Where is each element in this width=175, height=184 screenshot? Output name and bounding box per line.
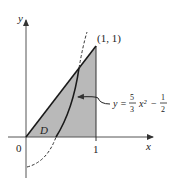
eq-minus: − (151, 98, 157, 109)
region-diagram: y x 0 1 (1, 1) D y = 5 3 x² − 1 2 (0, 0, 175, 184)
x-tick-label-1: 1 (93, 143, 99, 155)
point-label: (1, 1) (97, 32, 121, 45)
origin-label: 0 (16, 142, 22, 154)
eq-frac2-den: 2 (161, 105, 165, 114)
x-axis-label: x (145, 140, 151, 152)
curve-equation: y = 5 3 x² − 1 2 (112, 93, 167, 114)
eq-frac1-num: 5 (130, 93, 134, 102)
eq-lhs: y = (112, 98, 127, 109)
eq-frac2-num: 1 (161, 93, 165, 102)
eq-frac1-den: 3 (130, 105, 134, 114)
region-label: D (39, 124, 48, 136)
parabola-dashed-lower (27, 137, 56, 167)
diagram-canvas: y x 0 1 (1, 1) D y = 5 3 x² − 1 2 (0, 0, 175, 184)
y-axis-label: y (17, 12, 23, 24)
eq-term: x² (138, 98, 147, 109)
